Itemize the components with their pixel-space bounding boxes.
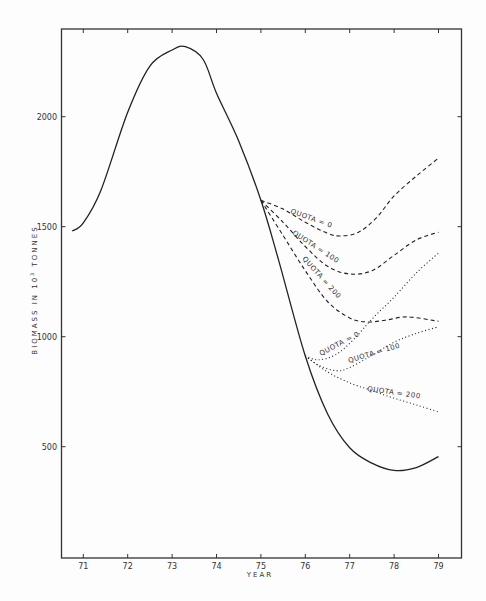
series-line-6 [305,356,438,412]
quota-label-4: QUOTA = 100 [347,342,401,365]
y-tick-label: 2000 [37,113,57,122]
series-line-0 [72,46,438,471]
y-tick-label: 1000 [37,333,57,342]
curve-labels: QUOTA = 0QUOTA = 100QUOTA = 200QUOTA = 0… [289,207,421,400]
x-tick-label: 74 [211,562,221,571]
x-tick-label: 79 [433,562,443,571]
x-axis-label: YEAR [246,571,273,579]
y-tick-label: 500 [42,443,57,452]
y-axis-ticks: 500100015002000 [37,113,462,452]
plot-frame [62,29,462,558]
quota-label-3: QUOTA = 0 [318,330,361,358]
x-tick-label: 75 [256,562,266,571]
y-tick-label: 1500 [37,223,57,232]
series-group [72,46,438,471]
x-tick-label: 72 [123,562,133,571]
series-line-4 [305,253,438,360]
series-line-1 [261,158,439,236]
biomass-chart: 717273747576777879 500100015002000 QUOTA… [0,0,486,601]
x-tick-label: 73 [167,562,177,571]
series-line-3 [261,200,439,322]
x-axis-ticks: 717273747576777879 [78,29,443,571]
x-tick-label: 76 [300,562,310,571]
x-tick-label: 71 [78,562,88,571]
x-tick-label: 78 [389,562,399,571]
quota-label-0: QUOTA = 0 [289,207,333,230]
y-axis-label: BIOMASS IN 103 TONNES [29,225,39,354]
x-tick-label: 77 [345,562,355,571]
